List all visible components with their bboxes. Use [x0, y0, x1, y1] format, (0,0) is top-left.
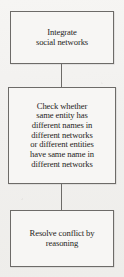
flowchart-node-resolve-line-2: reasoning	[13, 239, 111, 249]
flowchart-node-check: Check whether same entity has different …	[8, 87, 116, 184]
flowchart-node-check-text: Check whether same entity has different …	[9, 102, 115, 170]
flowchart-node-resolve: Resolve conflict by reasoning	[10, 210, 114, 267]
flowchart-connector-check-to-resolve	[61, 184, 62, 210]
flowchart-node-integrate: Integrate social networks	[10, 11, 114, 64]
flowchart-diagram: Integrate social networks Check whether …	[0, 0, 124, 277]
flowchart-node-resolve-text: Resolve conflict by reasoning	[11, 229, 113, 248]
flowchart-node-integrate-text: Integrate social networks	[11, 28, 113, 47]
flowchart-connector-integrate-to-check	[61, 64, 62, 87]
flowchart-node-check-line-7: different networks	[11, 160, 113, 170]
flowchart-node-integrate-line-2: social networks	[13, 38, 111, 48]
